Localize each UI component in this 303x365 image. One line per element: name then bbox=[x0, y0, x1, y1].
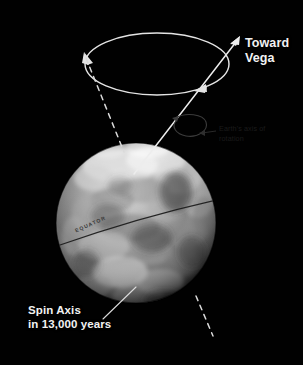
precession-diagram-figure: Toward Vega Spin Axis in 13,000 years Ea… bbox=[0, 0, 303, 365]
rotation-label-leader-line bbox=[199, 130, 216, 136]
label-spin-axis: Spin Axis in 13,000 years bbox=[28, 304, 111, 331]
precession-path-ellipse bbox=[85, 33, 229, 95]
arrowhead-counterclockwise-right bbox=[194, 84, 207, 93]
label-toward-vega: Toward Vega bbox=[245, 36, 289, 66]
vega-direction-arrow bbox=[134, 36, 240, 174]
label-earth-axis-of-rotation: Earth's axis of rotation bbox=[219, 124, 265, 143]
